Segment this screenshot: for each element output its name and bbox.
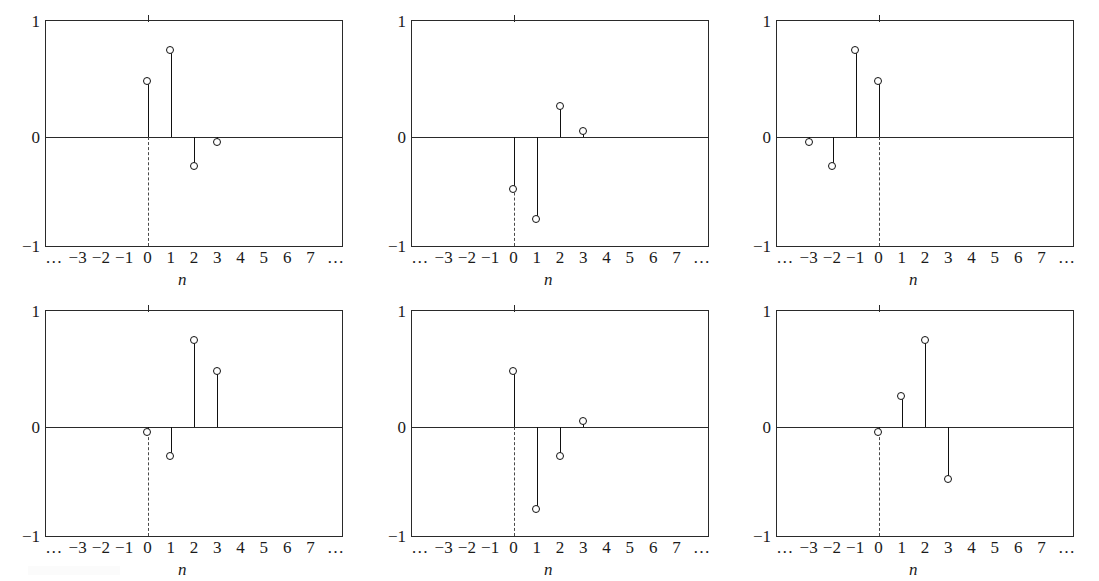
plot-panel-5: h5(n) = (−1)nh1(n)10−1…−3−2−101234567…n — [366, 290, 732, 580]
x-axis-tick-label: 3 — [944, 249, 953, 266]
x-axis-tick-label: 4 — [602, 539, 611, 556]
x-axis: …−3−2−101234567… — [45, 539, 343, 565]
y-axis-tick-label: −1 — [753, 238, 771, 255]
x-axis-tick-label: 5 — [626, 539, 635, 556]
origin-tick-mark — [879, 305, 880, 312]
x-axis-tick-label: … — [776, 249, 794, 266]
data-point-marker — [874, 428, 882, 436]
x-axis-tick-label: 1 — [897, 539, 906, 556]
x-axis-tick-label: 3 — [213, 539, 222, 556]
y-axis-tick-label: 1 — [398, 303, 407, 320]
x-axis-tick-label: 6 — [283, 249, 292, 266]
x-axis-tick-label: 0 — [143, 539, 152, 556]
x-axis-tick-label: 1 — [897, 249, 906, 266]
x-axis-variable-label: n — [909, 560, 918, 580]
y-axis-tick-label: −1 — [753, 528, 771, 545]
origin-reference-line — [148, 427, 149, 536]
data-point-marker — [532, 215, 540, 223]
data-point-marker — [851, 46, 859, 54]
x-axis-tick-label: −3 — [800, 249, 818, 266]
x-axis-variable-label: n — [544, 270, 553, 290]
data-point-marker — [532, 505, 540, 513]
x-axis-tick-label: 5 — [626, 249, 635, 266]
stem-line — [879, 81, 880, 137]
x-axis-tick-label: −1 — [481, 249, 499, 266]
data-point-marker — [509, 367, 517, 375]
plot-panel-2: h2(n) = −h1(n)10−1…−3−2−101234567…n — [366, 0, 732, 290]
x-axis-tick-label: 5 — [260, 249, 269, 266]
x-axis-tick-label: −3 — [435, 539, 453, 556]
x-axis-tick-label: 0 — [509, 539, 518, 556]
x-axis-tick-label: 5 — [991, 539, 1000, 556]
x-axis-tick-label: 2 — [921, 249, 930, 266]
x-axis-tick-label: −2 — [823, 249, 841, 266]
x-axis-tick-label: 1 — [166, 249, 175, 266]
stem-line — [902, 396, 903, 427]
plot-frame: 10−1 — [776, 310, 1074, 537]
x-axis-tick-label: … — [327, 539, 345, 556]
x-axis-tick-label: 3 — [944, 539, 953, 556]
stem-layer — [412, 311, 708, 536]
stem-layer — [46, 21, 342, 246]
plot-frame: 10−1 — [411, 310, 709, 537]
x-axis: …−3−2−101234567… — [776, 539, 1074, 565]
y-axis-tick-label: 0 — [398, 418, 407, 435]
data-point-marker — [805, 138, 813, 146]
x-axis-tick-label: 4 — [602, 249, 611, 266]
x-axis-tick-label: 6 — [649, 539, 658, 556]
stem-line — [925, 340, 926, 427]
origin-tick-mark — [514, 15, 515, 22]
x-axis-tick-label: … — [45, 249, 63, 266]
x-axis-tick-label: 7 — [1037, 249, 1046, 266]
origin-reference-line — [879, 137, 880, 246]
x-axis-tick-label: −2 — [823, 539, 841, 556]
x-axis-tick-label: 1 — [532, 539, 541, 556]
y-axis-tick-label: −1 — [22, 528, 40, 545]
x-axis-variable-label: n — [178, 270, 187, 290]
x-axis-tick-label: … — [776, 539, 794, 556]
x-axis-tick-label: −2 — [458, 249, 476, 266]
plot-frame: 10−1 — [411, 20, 709, 247]
plot-frame: 10−1 — [776, 20, 1074, 247]
figure-stem-plot-grid: h1(n)10−1…−3−2−101234567…nh2(n) = −h1(n)… — [0, 0, 1099, 581]
y-axis-tick-label: −1 — [388, 528, 406, 545]
x-axis-tick-label: 7 — [306, 249, 315, 266]
x-axis-variable-label: n — [544, 560, 553, 580]
x-axis-tick-label: 4 — [967, 249, 976, 266]
x-axis-tick-label: 6 — [1014, 249, 1023, 266]
data-point-marker — [556, 102, 564, 110]
data-point-marker — [556, 452, 564, 460]
x-axis-tick-label: −1 — [115, 249, 133, 266]
plot-panel-1: h1(n)10−1…−3−2−101234567…n — [0, 0, 366, 290]
data-point-marker — [921, 336, 929, 344]
data-point-marker — [143, 428, 151, 436]
stem-line — [560, 106, 561, 137]
x-axis-tick-label: 7 — [672, 249, 681, 266]
data-point-marker — [874, 77, 882, 85]
x-axis-tick-label: … — [1058, 249, 1076, 266]
x-axis-tick-label: 6 — [649, 249, 658, 266]
stem-line — [948, 427, 949, 479]
origin-reference-line — [879, 427, 880, 536]
data-point-marker — [944, 475, 952, 483]
y-axis-tick-label: 0 — [763, 128, 772, 145]
stem-line — [514, 137, 515, 189]
data-point-marker — [166, 452, 174, 460]
y-axis-tick-label: 0 — [32, 418, 41, 435]
x-axis-tick-label: 6 — [1014, 539, 1023, 556]
y-axis-tick-label: 1 — [32, 13, 41, 30]
x-axis-tick-label: 4 — [967, 539, 976, 556]
x-axis-tick-label: … — [327, 249, 345, 266]
stem-line — [148, 81, 149, 137]
x-axis-tick-label: −1 — [846, 249, 864, 266]
origin-reference-line — [148, 137, 149, 246]
x-axis-tick-label: −1 — [481, 539, 499, 556]
plot-panel-6: h6(n) = (−1)nh1(K − 1 − n)10−1…−3−2−1012… — [731, 290, 1097, 580]
stem-layer — [46, 311, 342, 536]
x-axis-tick-label: 0 — [509, 249, 518, 266]
x-axis-tick-label: 0 — [874, 249, 883, 266]
x-axis-tick-label: 0 — [874, 539, 883, 556]
x-axis-tick-label: … — [411, 249, 429, 266]
data-point-marker — [213, 138, 221, 146]
y-axis-tick-label: −1 — [388, 238, 406, 255]
